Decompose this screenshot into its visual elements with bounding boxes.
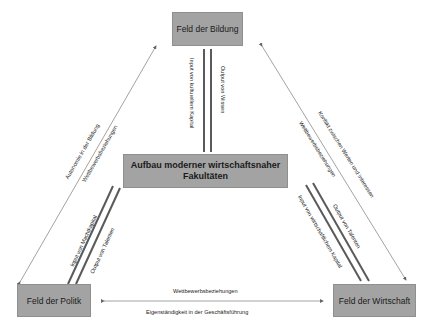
node-feld-der-wirtschaft: Feld der Wirtschaft bbox=[333, 284, 416, 317]
node-feld-der-bildung: Feld der Bildung bbox=[172, 12, 243, 46]
node-label-line1: Aufbau moderner wirtschaftsnaher bbox=[131, 160, 281, 171]
node-label-line2: Fakultäten bbox=[131, 171, 281, 182]
label-eigenstaendigkeit: Eigenständigkeit in der Geschäftsführung bbox=[146, 309, 248, 315]
node-label: Feld der Bildung bbox=[177, 24, 239, 34]
node-feld-der-politik: Feld der Politk bbox=[17, 284, 91, 317]
node-label: Feld der Politk bbox=[27, 296, 81, 306]
label-wettbewerb-bottom: Wettbewerbsbeziehungen bbox=[173, 288, 238, 294]
node-label: Feld der Wirtschaft bbox=[339, 296, 410, 306]
label-input-kulturelles-kapital: Input von kulturellem Kapital bbox=[189, 58, 195, 128]
label-output-wissen: Output von Wissen bbox=[220, 66, 226, 113]
diagram-canvas: Feld der Bildung Aufbau moderner wirtsch… bbox=[0, 0, 429, 332]
node-aufbau-fakultaeten: Aufbau moderner wirtschaftsnaher Fakultä… bbox=[123, 154, 288, 188]
